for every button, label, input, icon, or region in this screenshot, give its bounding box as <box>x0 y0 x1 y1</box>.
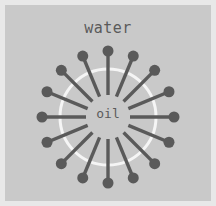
molecule-head <box>149 158 160 169</box>
molecule-head <box>128 172 139 183</box>
molecule-head <box>163 86 174 97</box>
molecule-head <box>128 51 139 62</box>
molecule-head <box>77 51 88 62</box>
molecule-head <box>37 112 48 123</box>
molecule-head <box>149 65 160 76</box>
oil-label: oil <box>96 106 119 121</box>
water-label: water <box>84 19 132 37</box>
molecule-head <box>103 46 114 57</box>
molecule-head <box>42 137 53 148</box>
molecule-head <box>169 112 180 123</box>
molecule-head <box>42 86 53 97</box>
micelle-diagram-figure: water oil <box>0 0 216 206</box>
molecule-head <box>163 137 174 148</box>
molecule-head <box>103 178 114 189</box>
molecule-head <box>56 65 67 76</box>
molecule-head <box>56 158 67 169</box>
diagram-canvas: water oil <box>0 0 216 206</box>
molecule-head <box>77 172 88 183</box>
